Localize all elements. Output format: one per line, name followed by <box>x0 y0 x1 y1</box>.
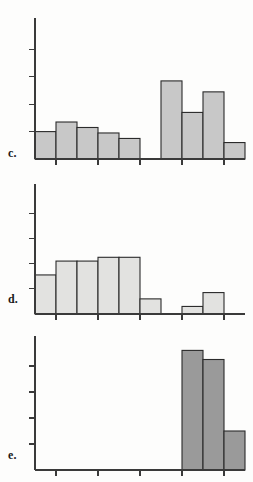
panel-c-svg <box>33 14 248 166</box>
panel-e-plot <box>33 332 248 478</box>
histogram-bar <box>203 360 224 471</box>
panel-c: c. <box>0 8 253 166</box>
histogram-bar <box>182 306 203 314</box>
panel-c-label: c. <box>8 146 17 161</box>
histogram-bar <box>203 293 224 314</box>
panel-d: d. <box>0 176 253 324</box>
histogram-bar <box>119 257 140 314</box>
panel-e-bars <box>182 350 245 470</box>
panel-d-plot <box>33 180 248 322</box>
histogram-bar <box>161 81 182 159</box>
histogram-bar <box>77 261 98 314</box>
histogram-bar <box>140 299 161 314</box>
histogram-bar <box>182 350 203 470</box>
panel-d-bars <box>35 257 224 314</box>
histogram-bar <box>224 143 245 159</box>
panel-d-svg <box>33 180 248 322</box>
histogram-bar <box>56 122 77 159</box>
panel-e: e. <box>0 330 253 482</box>
histogram-figure: c. d. <box>0 0 253 482</box>
histogram-bar <box>182 112 203 159</box>
histogram-bar <box>224 431 245 470</box>
histogram-bar <box>98 257 119 314</box>
panel-c-bars <box>35 81 245 159</box>
histogram-bar <box>119 138 140 159</box>
panel-d-label: d. <box>8 292 18 307</box>
histogram-bar <box>35 132 56 159</box>
histogram-bar <box>56 261 77 314</box>
panel-e-svg <box>33 332 248 478</box>
panel-e-label: e. <box>8 448 17 463</box>
histogram-bar <box>203 92 224 159</box>
histogram-bar <box>35 275 56 314</box>
panel-c-plot <box>33 14 248 166</box>
histogram-bar <box>98 133 119 159</box>
histogram-bar <box>77 127 98 159</box>
